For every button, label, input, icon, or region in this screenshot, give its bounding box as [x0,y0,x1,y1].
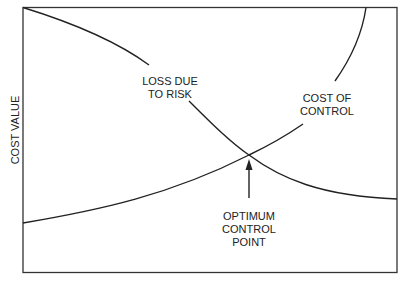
arrow-up-icon [246,159,253,170]
cost-label: COST OF CONTROL [292,92,362,118]
cost-curve-upper [335,8,366,82]
cost-label-line2: CONTROL [292,105,362,118]
optimum-label: OPTIMUM CONTROL POINT [214,210,284,249]
cost-curve-lower [23,124,303,223]
loss-label-line1: LOSS DUE [135,75,205,88]
loss-curve-upper [23,8,149,66]
cost-label-line1: COST OF [292,92,362,105]
optimum-label-line2: CONTROL [214,223,284,236]
loss-label: LOSS DUE TO RISK [135,75,205,101]
loss-label-line2: TO RISK [135,88,205,101]
y-axis-label: COST VALUE [9,85,21,175]
optimum-label-line3: POINT [214,236,284,249]
chart-canvas [0,0,403,285]
plot-frame [23,8,397,273]
optimum-label-line1: OPTIMUM [214,210,284,223]
